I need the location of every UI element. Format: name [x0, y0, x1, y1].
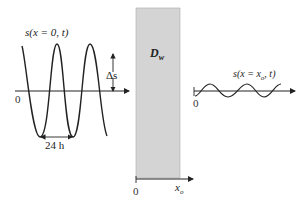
amplitude-label: Δs — [106, 69, 117, 81]
right-origin-label: 0 — [193, 97, 199, 109]
left-signal-label: s(x = 0, t) — [25, 26, 68, 38]
depth-end-label: xo — [175, 181, 183, 196]
depth-origin-label: 0 — [133, 185, 139, 197]
wall-label: Dw — [150, 46, 164, 62]
left-origin-label: 0 — [15, 93, 21, 105]
wall-block — [136, 8, 180, 178]
right-signal-label: s(x = xo, t) — [233, 68, 275, 82]
period-label: 24 h — [45, 139, 64, 151]
